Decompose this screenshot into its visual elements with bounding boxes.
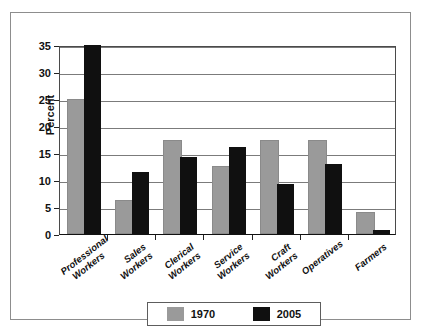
y-tick-label: 30 — [21, 67, 51, 79]
y-tick-mark — [54, 154, 59, 155]
plot-area — [59, 46, 396, 235]
gray-swatch-icon — [167, 307, 184, 321]
bar-2005-operatives — [325, 164, 342, 234]
x-tick-mark — [252, 235, 253, 240]
bar-2005-craft-workers — [277, 184, 294, 234]
y-tick-label: 25 — [21, 94, 51, 106]
x-tick-label: SalesWorkers — [107, 241, 155, 285]
x-tick-label: CraftWorkers — [251, 241, 299, 285]
y-tick-mark — [54, 235, 59, 236]
chart-legend: 1970 2005 — [147, 302, 321, 326]
bars-layer — [60, 47, 395, 234]
legend-item: 1970 — [167, 307, 215, 321]
x-tick-label: ClericalWorkers — [155, 241, 203, 285]
x-tick-label: ProfessionalWorkers — [58, 241, 106, 285]
x-tick-mark — [107, 235, 108, 240]
figure-border: Percent 05101520253035 ProfessionalWorke… — [10, 12, 411, 320]
chart-figure: Percent 05101520253035 ProfessionalWorke… — [0, 0, 424, 334]
y-tick-label: 35 — [21, 40, 51, 52]
y-tick-label: 0 — [21, 229, 51, 241]
bar-2005-farmers — [373, 230, 390, 234]
bar-2005-clerical-workers — [180, 157, 197, 234]
y-tick-mark — [54, 46, 59, 47]
x-tick-mark — [203, 235, 204, 240]
bar-2005-service-workers — [229, 147, 246, 234]
x-tick-label: ServiceWorkers — [203, 241, 251, 285]
y-tick-label: 5 — [21, 202, 51, 214]
y-tick-label: 20 — [21, 121, 51, 133]
x-tick-mark — [155, 235, 156, 240]
legend-label: 1970 — [191, 308, 215, 320]
y-tick-mark — [54, 100, 59, 101]
y-axis-title: Percent — [44, 70, 56, 160]
y-tick-mark — [54, 73, 59, 74]
x-tick-mark — [300, 235, 301, 240]
x-tick-mark — [348, 235, 349, 240]
x-tick-label: Operatives — [299, 241, 340, 277]
x-tick-label: Farmers — [347, 241, 388, 277]
y-tick-mark — [54, 127, 59, 128]
legend-item: 2005 — [253, 307, 301, 321]
y-tick-label: 15 — [21, 148, 51, 160]
legend-label: 2005 — [277, 308, 301, 320]
y-tick-mark — [54, 181, 59, 182]
y-tick-mark — [54, 208, 59, 209]
bar-2005-sales-workers — [132, 172, 149, 234]
bar-2005-professional-workers — [84, 45, 101, 234]
black-swatch-icon — [253, 307, 270, 321]
y-tick-label: 10 — [21, 175, 51, 187]
